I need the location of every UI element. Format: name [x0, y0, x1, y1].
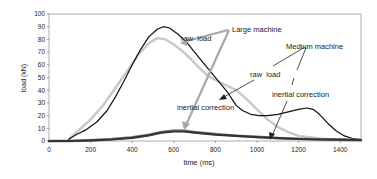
- annotation-raw-load-medium: raw load: [250, 70, 280, 79]
- y-tick-label: 60: [38, 61, 46, 68]
- x-tick-label: 800: [210, 146, 221, 153]
- y-tick-label: 10: [38, 125, 46, 132]
- y-tick-label: 80: [38, 36, 46, 43]
- x-tick-label: 400: [127, 146, 138, 153]
- y-axis-title: load (kN): [20, 64, 28, 92]
- x-axis: 0200400600800100012001400: [47, 141, 348, 153]
- y-tick-label: 90: [38, 23, 46, 30]
- y-tick-label: 40: [38, 87, 46, 94]
- load-time-chart: 0102030405060708090100 02004006008001000…: [0, 0, 377, 179]
- y-tick-label: 50: [38, 74, 46, 81]
- x-tick-label: 1200: [291, 146, 306, 153]
- y-tick-label: 0: [41, 137, 45, 144]
- y-tick-label: 30: [38, 99, 46, 106]
- y-tick-label: 20: [38, 112, 46, 119]
- x-tick-label: 200: [85, 146, 96, 153]
- y-axis: 0102030405060708090100: [34, 10, 49, 144]
- annotation-inertial-correction-medium: inertial correction: [272, 90, 329, 99]
- y-tick-label: 100: [34, 10, 45, 17]
- annotation-raw-load-large: raw load: [181, 34, 211, 43]
- x-axis-title: time (ms): [183, 158, 215, 167]
- x-tick-label: 1000: [250, 146, 265, 153]
- annotation-large-machine: Large machine: [232, 25, 282, 34]
- annotation-inertial-correction-large: inertial correction: [177, 103, 234, 112]
- x-tick-label: 0: [47, 146, 51, 153]
- x-tick-label: 600: [168, 146, 179, 153]
- x-tick-label: 1400: [333, 146, 348, 153]
- y-tick-label: 70: [38, 48, 46, 55]
- annotation-medium-machine: Medium machine: [286, 42, 343, 51]
